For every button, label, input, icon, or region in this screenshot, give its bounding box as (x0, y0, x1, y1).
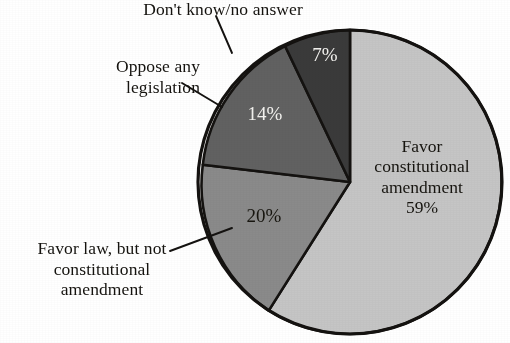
slice-label-favor-amendment: Favor constitutional amendment 59% (352, 136, 492, 218)
callout-label-favor-law: Favor law, but not constitutional amendm… (2, 238, 202, 300)
slice-percent-dont-know: 7% (299, 44, 351, 66)
callout-label-oppose-legislation: Oppose any legislation (38, 56, 200, 97)
pie-chart-figure: Don't know/no answer Oppose any legislat… (0, 0, 510, 343)
callout-label-dont-know: Don't know/no answer (104, 0, 342, 20)
leader-line-dont-know (216, 16, 232, 53)
slice-percent-oppose-legislation: 14% (233, 103, 297, 125)
slice-percent-favor-law: 20% (232, 205, 296, 227)
